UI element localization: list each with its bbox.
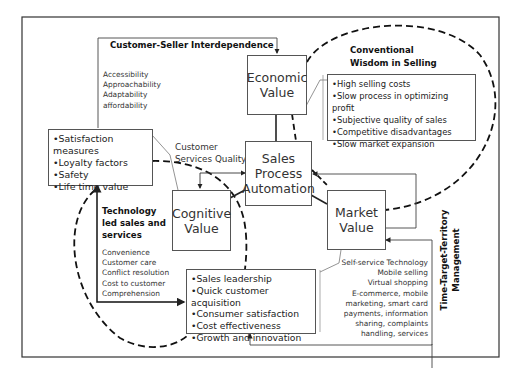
list-item: Self-service Technology [332,258,428,268]
item-adaptability: Adaptability [103,90,161,100]
list-item: Slow market expansion [332,138,471,150]
outcomes-list: Sales leadership Quick customer acquisit… [186,269,316,334]
list-item: Mobile selling [332,268,428,278]
list-item: Consumer satisfaction [191,308,311,320]
conventional-title-line1: Conventional [350,44,437,57]
conventional-title-line2: Wisdom in Selling [350,57,437,70]
market-line1: Market [335,205,378,220]
csq-line1: Customer [175,141,246,153]
customer-seller-items: Accessibility Approachability Adaptabili… [103,70,161,111]
spa-line1: Sales [242,151,315,166]
list-item: Cost effectiveness [191,320,311,332]
item-convenience: Convenience [102,248,169,258]
technology-title-line1: Technology [102,205,166,217]
item-conflict-resolution: Conflict resolution [102,268,169,278]
conventional-title: Conventional Wisdom in Selling [350,44,437,70]
list-item: payments, information [332,309,428,319]
list-item: marketing, smart card [332,299,428,309]
sales-process-automation-node: SalesProcessAutomation [245,141,312,206]
list-item: Quick customer acquisition [191,285,311,309]
list-item: Life time value [53,181,148,193]
market-value-node: MarketValue [327,190,386,250]
technology-title: Technology led sales and services [102,205,166,241]
list-item: Growth and innovation [191,332,311,344]
cognitive-line1: Cognitive [172,206,231,221]
customer-services-quality-label: Customer Services Quality [175,141,246,165]
technology-items: Convenience Customer care Conflict resol… [102,248,169,299]
ttt-line1: Time-Target-Territory [438,190,450,330]
csq-line2: Services Quality [175,153,246,165]
cognitive-value-node: CognitiveValue [172,190,231,251]
list-item: Competitive disadvantages [332,126,471,138]
list-item: Safety [53,169,148,181]
list-item: Slow process in optimizing profit [332,90,471,114]
list-item: Subjective quality of sales [332,114,471,126]
spa-line2: Process [242,166,315,181]
technology-title-line3: services [102,229,166,241]
ttt-management-label: Time-Target-Territory Management [438,190,462,330]
spa-line3: Automation [242,181,315,196]
market-line2: Value [335,220,378,235]
list-item: handling, services [332,329,428,339]
economic-value-node: EconomicValue [247,55,307,115]
customer-metrics-list: Satisfaction measures Loyalty factors Sa… [48,129,153,186]
item-affordability: affordability [103,101,161,111]
economic-line2: Value [247,85,308,100]
list-item: Sales leadership [191,273,311,285]
list-item: E-commerce, mobile [332,289,428,299]
item-accessibility: Accessibility [103,70,161,80]
conventional-list: High selling costs Slow process in optim… [327,74,476,141]
list-item: Loyalty factors [53,157,148,169]
item-customer-care: Customer care [102,258,169,268]
item-approachability: Approachability [103,80,161,90]
item-cost-to-customer: Cost to customer [102,279,169,289]
market-tech-items: Self-service Technology Mobile selling V… [332,258,428,340]
ttt-line2: Management [450,190,462,330]
technology-title-line2: led sales and [102,217,166,229]
list-item: Virtual shopping [332,278,428,288]
economic-line1: Economic [247,70,308,85]
list-item: sharing, complaints [332,319,428,329]
list-item: Satisfaction measures [53,133,148,157]
customer-seller-title: Customer-Seller Interdependence [110,40,274,50]
cognitive-line2: Value [172,221,231,236]
list-item: High selling costs [332,78,471,90]
item-comprehension: Comprehension [102,289,169,299]
